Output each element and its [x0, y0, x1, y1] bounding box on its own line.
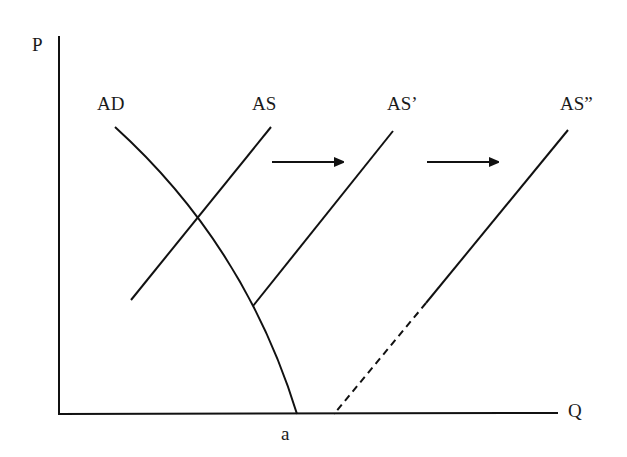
as-prime-curve: [253, 131, 393, 306]
ad-label: AD: [97, 93, 124, 114]
as-label: AS: [252, 93, 276, 114]
as-double-prime-label: AS”: [560, 93, 593, 114]
q-axis-mark-a: a: [281, 423, 290, 444]
as-prime-label: AS’: [387, 93, 418, 114]
x-axis: [58, 413, 558, 414]
as-double-prime-dashed-extension: [334, 303, 426, 414]
ad-curve: [115, 127, 297, 414]
x-axis-label: Q: [568, 400, 582, 421]
as-double-prime-curve: [426, 130, 568, 303]
y-axis-label: P: [32, 34, 43, 55]
ad-as-diagram: P Q AD AS AS’ AS” a: [0, 0, 627, 457]
as-curve: [131, 127, 271, 300]
